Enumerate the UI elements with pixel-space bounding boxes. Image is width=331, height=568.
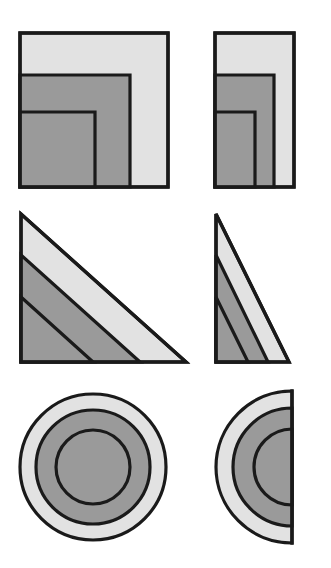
shape-square-wide [20,33,168,187]
square-wide-inner-core [20,112,95,187]
figure-root: Nested concentric geometric shapes Six l… [0,0,331,568]
shape-circle-full [20,394,166,540]
circle-full-inner-disc [56,430,130,504]
geometric-shapes-figure [0,0,331,568]
square-narrow-inner-core [215,112,255,187]
shape-square-narrow [215,33,294,187]
